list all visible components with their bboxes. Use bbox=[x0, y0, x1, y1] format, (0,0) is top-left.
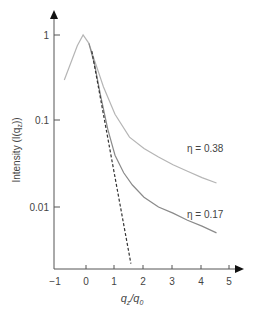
annotation-eta-0.38: η = 0.38 bbox=[187, 143, 224, 154]
x-tick-label: 1 bbox=[111, 276, 117, 287]
x-tick-label: 0 bbox=[83, 276, 89, 287]
x-tick-label: −1 bbox=[49, 276, 61, 287]
series-eta-0.38 bbox=[64, 35, 216, 183]
y-ticks: 1 0.1 0.01 bbox=[30, 30, 60, 213]
x-tick-label: 4 bbox=[198, 276, 204, 287]
x-tick-label: 2 bbox=[140, 276, 146, 287]
x-ticks: −1 0 1 2 3 4 5 bbox=[49, 265, 232, 287]
y-tick-label: 1 bbox=[43, 30, 49, 41]
y-tick-label: 0.1 bbox=[35, 115, 49, 126]
series-eta-0.17 bbox=[89, 43, 217, 233]
x-axis-label: qz/q0 bbox=[121, 292, 144, 306]
y-tick-label: 0.01 bbox=[30, 202, 50, 213]
x-axis-arrow-icon bbox=[235, 265, 244, 273]
x-tick-label: 5 bbox=[226, 276, 232, 287]
y-axis-arrow-icon bbox=[50, 10, 58, 19]
intensity-chart: 1 0.1 0.01 −1 0 1 2 3 4 5 qz/q0 Intensit… bbox=[0, 0, 253, 314]
x-tick-label: 3 bbox=[169, 276, 175, 287]
chart-container: 1 0.1 0.01 −1 0 1 2 3 4 5 qz/q0 Intensit… bbox=[0, 0, 253, 314]
series-reference-dashed bbox=[92, 51, 131, 264]
annotation-eta-0.17: η = 0.17 bbox=[187, 209, 224, 220]
y-axis-label: Intensity (I(qz)) bbox=[11, 117, 23, 182]
